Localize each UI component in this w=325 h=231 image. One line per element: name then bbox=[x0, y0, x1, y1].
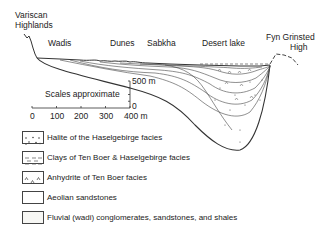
legend-label-halite: Halite of the Haselgebirge facies bbox=[47, 133, 162, 142]
label-sabkha: Sabkha bbox=[147, 38, 176, 48]
clay-pattern-icon bbox=[22, 151, 44, 164]
legend-item-anhydrite: Anhydrite of Ten Boer facies bbox=[22, 170, 147, 184]
legend-item-fluvial: Fluvial (wadi) conglomerates, sandstones… bbox=[22, 210, 237, 224]
legend-label-anhydrite: Anhydrite of Ten Boer facies bbox=[47, 173, 147, 182]
scale-tick-300: 300 bbox=[99, 111, 113, 121]
fluvial-pattern-icon bbox=[22, 211, 44, 224]
scale-tick-0: 0 bbox=[30, 111, 35, 121]
anhydrite-carets-fill bbox=[218, 69, 253, 100]
high-dashed-profile bbox=[270, 54, 298, 65]
legend-label-fluvial: Fluvial (wadi) conglomerates, sandstones… bbox=[47, 213, 237, 222]
highlands-profile bbox=[24, 34, 37, 58]
halite-dots-fill bbox=[214, 79, 262, 142]
scale-tick-200: 200 bbox=[74, 111, 88, 121]
label-fyn-grinsted: Fyn Grinsted bbox=[266, 32, 315, 42]
halite-pattern-icon bbox=[22, 131, 44, 144]
scale-tick-400: 400 m bbox=[124, 111, 148, 121]
label-dunes: Dunes bbox=[110, 38, 135, 48]
label-wadis: Wadis bbox=[48, 38, 71, 48]
label-variscan: Variscan bbox=[15, 10, 47, 20]
legend-item-clays: Clays of Ten Boer & Haselgebirge facies bbox=[22, 150, 190, 164]
legend-item-halite: Halite of the Haselgebirge facies bbox=[22, 130, 162, 144]
scale-vertical-top: 500 m bbox=[132, 76, 156, 86]
aeolian-pattern-icon bbox=[22, 191, 44, 204]
scale-caption: Scales approximate bbox=[45, 89, 120, 99]
label-highlands: Highlands bbox=[15, 20, 53, 30]
legend-label-clays: Clays of Ten Boer & Haselgebirge facies bbox=[47, 153, 190, 162]
scale-vertical-bottom: 0 bbox=[132, 101, 137, 111]
label-desert-lake: Desert lake bbox=[202, 38, 245, 48]
scale-tick-100: 100 bbox=[50, 111, 64, 121]
label-high: High bbox=[290, 42, 307, 52]
anhydrite-pattern-icon bbox=[22, 171, 44, 184]
legend-item-aeolian: Aeolian sandstones bbox=[22, 190, 117, 204]
legend-label-aeolian: Aeolian sandstones bbox=[47, 193, 117, 202]
